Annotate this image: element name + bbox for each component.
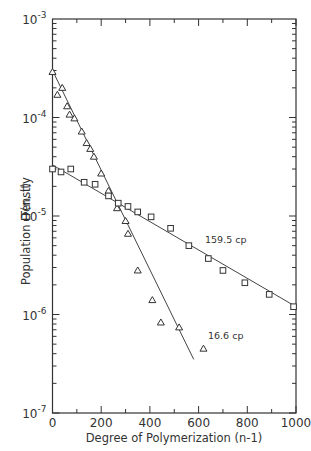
triangle-marker (54, 91, 61, 97)
x-axis-label: Degree of Polymerization (n-1) (86, 431, 263, 445)
square-marker (92, 181, 98, 187)
square-marker (106, 193, 112, 199)
x-tick-label: 800 (236, 416, 259, 430)
triangle-marker (49, 68, 56, 74)
x-tick-label: 0 (49, 416, 57, 430)
data-markers (49, 68, 296, 351)
triangle-marker (124, 230, 131, 236)
triangle-marker (78, 128, 85, 134)
triangle-marker (200, 345, 207, 351)
plot-frame (53, 19, 297, 413)
y-tick-label: 10-3 (22, 10, 46, 27)
triangle-marker (98, 170, 105, 176)
square-marker (148, 214, 154, 220)
square-marker (135, 209, 141, 215)
triangle-marker (90, 153, 97, 159)
square-marker (168, 226, 174, 232)
y-tick-label: 10-6 (22, 306, 47, 323)
plot-border (53, 19, 297, 413)
square-marker (58, 169, 64, 175)
square-marker (50, 166, 56, 172)
triangle-marker (83, 140, 90, 146)
square-marker (68, 166, 74, 172)
square-marker (266, 292, 272, 298)
square-marker (115, 200, 121, 206)
series-annotation-159-5-cp: 159.5 cp (205, 234, 246, 245)
x-tick-label: 200 (90, 416, 113, 430)
square-marker (291, 304, 297, 310)
fit-line (53, 71, 194, 360)
x-tick-label: 600 (187, 416, 210, 430)
triangle-marker (122, 217, 129, 223)
triangle-marker (87, 145, 94, 151)
square-marker (186, 243, 192, 249)
triangle-marker (157, 319, 164, 325)
x-tick-label: 1000 (281, 416, 311, 430)
square-marker (242, 280, 248, 286)
axis-ticks (53, 19, 297, 413)
y-tick-label: 10-4 (22, 109, 47, 126)
x-tick-label: 400 (138, 416, 161, 430)
square-marker (220, 268, 226, 274)
square-marker (125, 204, 131, 210)
axis-tick-labels: 0200400600800100010-310-410-510-610-7 (22, 10, 311, 430)
y-tick-label: 10-7 (22, 404, 46, 421)
triangle-marker (66, 111, 73, 117)
y-axis-secondary-label: T(n, t) (19, 183, 33, 219)
square-marker (206, 256, 212, 262)
series-annotation-16-6-cp: 16.6 cp (208, 330, 243, 341)
population-density-chart: 0200400600800100010-310-410-510-610-7 De… (0, 0, 311, 451)
fit-line (53, 165, 297, 307)
square-marker (81, 179, 87, 185)
triangle-marker (134, 267, 141, 273)
fit-lines (53, 71, 297, 360)
triangle-marker (149, 297, 156, 303)
